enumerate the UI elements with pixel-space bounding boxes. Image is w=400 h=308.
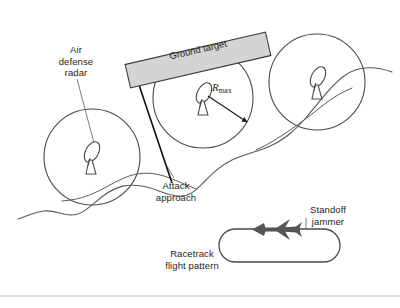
r-max-subscript: max xyxy=(219,86,232,95)
label-racetrack-flight-pattern: Racetrack flight pattern xyxy=(148,248,236,271)
label-standoff-jammer: Standoff jammer xyxy=(292,204,364,227)
racetrack-flight-path xyxy=(219,229,340,262)
r-max-symbol: R xyxy=(212,81,219,93)
terrain-strand-right xyxy=(256,88,352,150)
label-air-defense-radar: Air defense radar xyxy=(44,44,108,79)
rmax-radius-arrow xyxy=(208,96,247,122)
label-r-max: Rmax xyxy=(212,81,232,95)
radar-dish-left xyxy=(81,139,103,174)
radar-coverage-diagram: Air defense radar Ground target Rmax Att… xyxy=(0,0,400,308)
attack-approach-arrow xyxy=(137,79,172,183)
label-attack-approach: Attack approach xyxy=(140,180,212,203)
